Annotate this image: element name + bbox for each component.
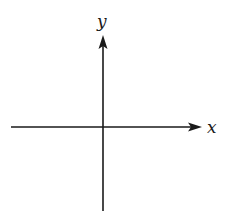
x-axis-label: x: [207, 117, 217, 137]
y-axis-label: y: [96, 11, 107, 31]
coordinate-axes-diagram: x y: [0, 0, 238, 215]
